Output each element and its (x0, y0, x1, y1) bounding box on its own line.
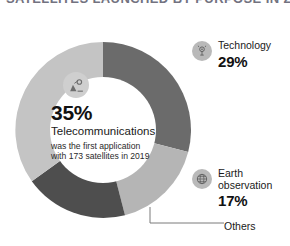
technology-gear-icon (192, 41, 212, 61)
donut-chart (13, 40, 193, 220)
page-title: SATELLITES LAUNCHED BY PURPOSE IN 2019 (6, 0, 290, 5)
donut-chart-svg (13, 40, 193, 220)
legend-label-earth-observation-line1: Earth (218, 168, 272, 180)
legend-item-technology[interactable]: Technology 29% (192, 40, 271, 70)
donut-hole (50, 77, 156, 183)
legend-percent-earth-observation: 17% (218, 192, 272, 209)
globe-glyph (195, 172, 209, 186)
legend-label-earth-observation-line2: observation (218, 180, 272, 192)
legend-label-technology: Technology (218, 40, 271, 52)
legend-percent-technology: 29% (218, 53, 271, 70)
legend-label-others[interactable]: Others (224, 220, 256, 232)
others-leader-line (140, 205, 226, 235)
infographic-root: SATELLITES LAUNCHED BY PURPOSE IN 2019 (0, 0, 290, 246)
technology-gear-glyph (195, 44, 209, 58)
legend-item-earth-observation[interactable]: Earth observation 17% (192, 168, 272, 209)
globe-icon (192, 169, 212, 189)
